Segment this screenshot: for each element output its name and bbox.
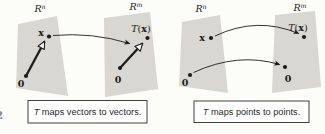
origin-point: [24, 74, 28, 78]
image-origin-label-2: 0: [285, 73, 292, 84]
margin-number-fragment: 2: [0, 109, 3, 122]
x-label: x: [38, 27, 44, 38]
x-point: [47, 34, 51, 38]
figure-vectors-diagram: Rn Rm x 0 T(x) 0 Tmaps vectors to vector…: [16, 1, 158, 123]
caption-vectors: Tmaps vectors to vectors.: [34, 107, 142, 117]
codomain-space-label: Rm: [128, 1, 142, 12]
origin-point-2: [188, 73, 192, 77]
origin-label-2: 0: [182, 77, 189, 88]
textbook-figure: Rn Rm x 0 T(x) 0 Tmaps vectors to vector…: [0, 0, 325, 134]
tx-point: [145, 36, 149, 40]
origin-label: 0: [18, 78, 25, 89]
tx-point-2: [302, 35, 306, 39]
domain-space-label: Rn: [33, 3, 45, 14]
codomain-space-label-2: Rm: [292, 2, 306, 13]
figure-points-diagram: Rn Rm x 0 T(x) 0 Tmaps points to points.: [179, 2, 321, 123]
image-origin-point-2: [283, 65, 287, 69]
x-label-2: x: [199, 32, 205, 43]
caption-points: Tmaps points to points.: [203, 107, 301, 117]
domain-space-label-2: Rn: [194, 3, 206, 14]
image-origin-point: [118, 66, 122, 70]
figure-canvas: Rn Rm x 0 T(x) 0 Tmaps vectors to vector…: [0, 0, 325, 134]
tx-label: T(x): [131, 23, 150, 34]
image-origin-label: 0: [115, 74, 122, 85]
x-point-2: [209, 36, 213, 40]
